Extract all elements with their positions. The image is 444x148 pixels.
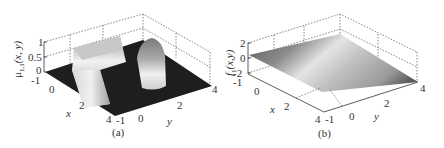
plane-b: [249, 34, 418, 92]
chart-panel-b: f1(x,y) 2 0 -2 -1 0 2 4 x -1 0 2 4 y (b): [222, 0, 444, 148]
z-tick-0: 0: [240, 53, 246, 64]
x-axis-label-a: x: [66, 108, 71, 119]
x-tick-4: 4: [106, 114, 112, 125]
y-axis-label-b: y: [374, 111, 379, 122]
x-tick-neg1: -1: [31, 75, 40, 86]
x-tick-0: 0: [254, 86, 260, 97]
caption-a: (a): [112, 126, 124, 138]
y-axis-label-a: y: [167, 116, 172, 127]
y-tick-neg1: -1: [325, 114, 334, 125]
z-tick-1: 1: [38, 37, 44, 48]
x-tick-4: 4: [315, 114, 321, 125]
chart-panel-a: μ1,1(x, y) 1 0.5 0 -1 0 2 4 x -1 0 2 4 y…: [0, 0, 222, 148]
z-axis-a: [44, 42, 47, 72]
x-tick-2: 2: [284, 101, 290, 112]
y-tick-2: 2: [177, 100, 183, 111]
z-axis-label-a: μ1,1(x, y): [11, 41, 26, 78]
y-tick-4: 4: [212, 84, 218, 95]
z-axis-b: [248, 43, 251, 74]
y-tick-4: 4: [420, 83, 426, 94]
z-tick-2: 2: [240, 38, 246, 49]
x-axis-label-b: x: [270, 104, 275, 115]
surface-plot-b: [222, 0, 444, 148]
x-tick-0: 0: [49, 84, 55, 95]
y-tick-2: 2: [384, 98, 390, 109]
z-tick-0.5: 0.5: [28, 52, 42, 63]
caption-b: (b): [318, 127, 331, 139]
x-tick-neg1: -1: [233, 77, 242, 88]
y-tick-0: 0: [138, 113, 144, 124]
block-right-a: [137, 38, 166, 90]
x-tick-2: 2: [79, 100, 85, 111]
y-tick-0: 0: [349, 111, 355, 122]
y-tick-neg1: -1: [116, 115, 125, 126]
